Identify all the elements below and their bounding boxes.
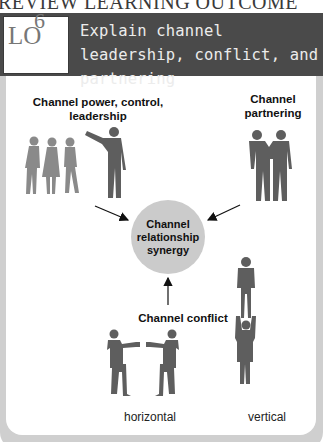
synergy-circle: Channel relationship synergy <box>131 200 205 274</box>
synergy-label: Channel relationship synergy <box>131 218 205 257</box>
acrobats-stacked-icon <box>226 256 266 388</box>
arrow-from-partnering <box>208 205 240 220</box>
horizontal-label: horizontal <box>110 410 190 424</box>
conflict-label: Channel conflict <box>128 311 238 325</box>
vertical-label: vertical <box>232 410 302 424</box>
boxers-facing-icon <box>100 326 200 406</box>
arrow-from-leadership <box>95 206 128 220</box>
